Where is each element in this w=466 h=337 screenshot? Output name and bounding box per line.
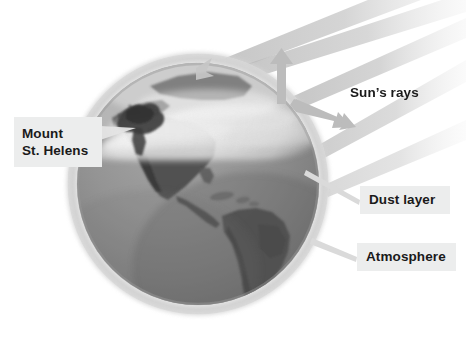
label-dust-layer: Dust layer <box>360 186 450 214</box>
earth-dust-layer-illustration <box>0 0 466 337</box>
diagram-canvas: Mount St. Helens Sun’s rays Dust layer A… <box>0 0 466 337</box>
leader-atmosphere <box>310 238 357 262</box>
label-atmosphere: Atmosphere <box>357 243 456 271</box>
label-mount-st-helens: Mount St. Helens <box>14 117 102 167</box>
label-suns-rays: Sun’s rays <box>348 82 428 104</box>
